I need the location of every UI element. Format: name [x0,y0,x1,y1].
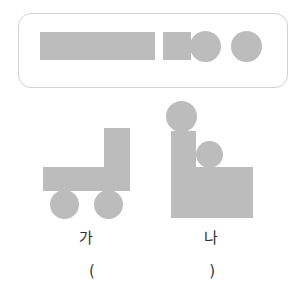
figure-na-label: 나 [191,231,231,246]
na-top-circle [166,101,197,132]
ga-vertical-rectangle [104,128,130,168]
ga-wheel-right [94,190,123,219]
worksheet-page: 가 나 ( ) [0,0,304,298]
na-tall-rectangle [171,131,196,218]
small-rectangle [163,32,191,60]
answer-parentheses[interactable]: ( ) [0,262,304,280]
circle-1 [190,31,221,62]
ga-wheel-left [50,190,79,219]
ga-horizontal-rectangle [43,167,130,191]
figure-ga-label: 가 [66,231,106,246]
circle-2 [231,31,262,62]
long-rectangle [40,32,155,60]
na-middle-circle [196,141,223,168]
na-body-rectangle [196,167,253,218]
